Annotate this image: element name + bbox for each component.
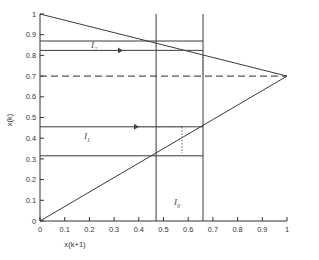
interval-I0-subscript: 0 [177,203,180,209]
x-tick-label-0: 0 [38,225,42,234]
x-axis-tick-labels: 0 0.1 0.2 0.3 0.4 0.5 0.6 0.7 0.8 0.9 1 [38,225,289,234]
x-tick-label-06: 0.6 [183,225,193,234]
dropper-lines [182,50,203,153]
y-axis-tick-labels: 0 0.1 0.2 0.3 0.4 0.5 0.6 0.7 0.8 0.9 1 [26,10,36,226]
chart-canvas: 0 0.1 0.2 0.3 0.4 0.5 0.6 0.7 0.8 0.9 1 [0,0,319,260]
y-axis-ticks [40,14,44,221]
x-axis-ticks [40,217,287,221]
upper-envelope-line [40,14,287,76]
x-tick-label-1: 1 [285,225,289,234]
x-tick-label-02: 0.2 [84,225,94,234]
interval-I1-subscript: 1 [87,137,90,143]
interval-I2-label: I2 [90,40,97,52]
x-tick-label-03: 0.3 [109,225,119,234]
interval-I1-label: I1 [83,131,90,143]
x-tick-label-09: 0.9 [257,225,267,234]
interval-annotations: I2 I1 I0 [83,40,180,209]
y-tick-label-05: 0.5 [26,113,36,122]
mapping-arrows [118,50,203,126]
x-tick-label-08: 0.8 [232,225,242,234]
interval-I0-label: I0 [173,197,180,209]
interval-I2-subscript: 2 [94,46,97,52]
y-tick-label-0: 0 [32,217,36,226]
y-tick-label-08: 0.8 [26,51,36,60]
x-tick-label-05: 0.5 [158,225,168,234]
y-axis-title: x(k) [5,113,14,126]
y-tick-label-06: 0.6 [26,92,36,101]
y-tick-label-1: 1 [32,10,36,19]
chart-figure: 0 0.1 0.2 0.3 0.4 0.5 0.6 0.7 0.8 0.9 1 [0,0,319,260]
y-tick-label-04: 0.4 [26,134,36,143]
x-axis-title: x(k+1) [64,240,86,249]
y-tick-label-07: 0.7 [26,72,36,81]
interval-band-lines [40,41,203,156]
x-tick-label-04: 0.4 [134,225,144,234]
y-tick-label-02: 0.2 [26,175,36,184]
y-tick-label-09: 0.9 [26,30,36,39]
lower-envelope-line [40,76,287,221]
x-tick-label-07: 0.7 [208,225,218,234]
x-tick-label-01: 0.1 [60,225,70,234]
y-tick-label-03: 0.3 [26,155,36,164]
y-tick-label-01: 0.1 [26,196,36,205]
